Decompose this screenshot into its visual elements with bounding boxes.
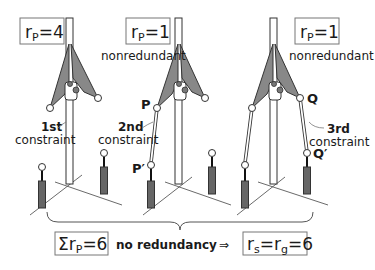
- platform-joint: [47, 105, 54, 112]
- joint-P: [154, 105, 161, 112]
- constraint-label-ordinal: 2nd: [118, 120, 143, 134]
- constraint-label-ordinal: 3rd: [327, 122, 350, 136]
- vertical-pole: [175, 18, 182, 184]
- constraint-label-text: constraint: [98, 133, 159, 147]
- leg-cylinder: [148, 181, 155, 208]
- platform-joint: [95, 95, 102, 102]
- ground-axis-line: [55, 182, 122, 205]
- connecting-link-inner: [300, 98, 307, 152]
- ground-axis-line: [165, 182, 231, 205]
- constraint-label-text: constraint: [15, 133, 76, 147]
- gripper-joint: [182, 87, 188, 93]
- summary-row: ΣrP=6 no redundancy ⇒ rs=rg=6: [55, 232, 313, 256]
- gripper-joint: [277, 87, 283, 93]
- vertical-pole: [270, 18, 277, 184]
- gripper-joint: [73, 87, 79, 93]
- point-P-prime-label: P′: [132, 161, 146, 176]
- leg-top-joint: [39, 164, 46, 171]
- leg-cylinder: [101, 167, 108, 194]
- panel-3: rP=1 nonredundant Q Q′ 3rd constraint: [237, 18, 374, 215]
- implies-arrow: ⇒: [219, 238, 229, 252]
- leg-cylinder: [242, 181, 249, 208]
- sum-rp-label: ΣrP=6: [58, 234, 107, 256]
- rp-label: rP=4: [25, 22, 64, 44]
- rp-label: rP=1: [131, 22, 170, 44]
- leg-cylinder: [209, 167, 216, 194]
- parallel-mechanism-diagram: rP=4 1st constraint rP=1 nonredundant: [0, 0, 375, 270]
- vertical-pole: [66, 18, 73, 184]
- gripper-joint: [68, 82, 73, 87]
- leg-cylinder: [304, 167, 311, 194]
- leg-top-joint: [242, 162, 249, 169]
- leg-top-joint: [209, 150, 216, 157]
- nonredundant-label: nonredundant: [289, 49, 374, 63]
- rp-label: rP=1: [300, 22, 339, 44]
- ground-axis-line: [30, 175, 82, 215]
- curly-brace: [47, 212, 313, 230]
- leg-top-joint: [101, 150, 108, 157]
- nonredundant-label: nonredundant: [101, 49, 186, 63]
- gripper-joint: [177, 82, 182, 87]
- gripper-joint: [272, 82, 277, 87]
- no-redundancy-label: no redundancy: [116, 238, 217, 252]
- connecting-link-inner: [245, 108, 252, 163]
- constraint-label-text: constraint: [309, 135, 370, 149]
- platform-joint: [202, 95, 209, 102]
- constraint-leader-line: [142, 122, 153, 128]
- platform-joint: [249, 105, 256, 112]
- joint-P-prime: [148, 162, 155, 169]
- joint-Q: [297, 95, 304, 102]
- panel-1: rP=4 1st constraint: [15, 18, 122, 215]
- leg-cylinder: [39, 181, 46, 208]
- constraint-leader-line: [309, 122, 324, 128]
- joint-Q-prime: [304, 150, 311, 157]
- point-Q-label: Q: [307, 91, 318, 106]
- panel-2: rP=1 nonredundant P P′ 2nd constraint: [98, 18, 231, 215]
- point-P-label: P: [141, 97, 151, 112]
- ground-axis-line: [258, 182, 328, 205]
